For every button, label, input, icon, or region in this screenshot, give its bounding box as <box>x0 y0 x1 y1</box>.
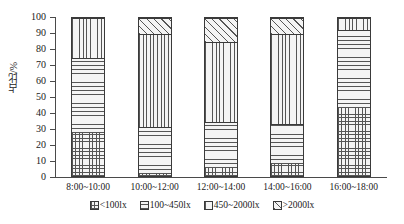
bar-segment->2000lx <box>271 18 303 34</box>
bar-segment-100~450lx <box>205 122 237 169</box>
bar-segment-<100lx <box>72 133 104 176</box>
legend-swatch-icon <box>273 201 282 210</box>
legend: <100lx100~450lx450~2000lx>2000lx <box>0 200 404 211</box>
y-tick-label: 30 <box>16 124 46 134</box>
bar-1 <box>71 17 105 177</box>
bar-segment-450~2000lx <box>139 34 171 127</box>
plot-area <box>55 17 387 177</box>
bar-3 <box>204 17 238 177</box>
y-tick-label: 100 <box>16 12 46 22</box>
bar-segment-100~450lx <box>271 124 303 164</box>
legend-swatch-icon <box>204 201 213 210</box>
legend-label: 100~450lx <box>150 200 191 211</box>
y-tick-label: 40 <box>16 108 46 118</box>
bar-4 <box>270 17 304 177</box>
bar-2 <box>138 17 172 177</box>
y-tick-label: 60 <box>16 76 46 86</box>
bar-segment-<100lx <box>338 108 370 176</box>
bar-segment-100~450lx <box>338 30 370 108</box>
legend-label: <100lx <box>100 200 127 211</box>
bar-segment-<100lx <box>205 168 237 176</box>
bar-segment-100~450lx <box>72 58 104 134</box>
y-tick-label: 90 <box>16 28 46 38</box>
y-tick-label: 80 <box>16 44 46 54</box>
legend-label: 450~2000lx <box>214 200 260 211</box>
legend-swatch-icon <box>90 201 99 210</box>
y-tick-label: 10 <box>16 156 46 166</box>
x-axis-line <box>55 177 387 178</box>
legend-swatch-icon <box>140 201 149 210</box>
y-tick-label: 0 <box>16 172 46 182</box>
bar-segment-450~2000lx <box>205 42 237 122</box>
bar-5 <box>337 17 371 177</box>
bar-segment-450~2000lx <box>72 18 104 58</box>
legend-item-1[interactable]: <100lx <box>90 200 127 211</box>
y-tick-label: 20 <box>16 140 46 150</box>
y-tick-mark <box>50 177 55 178</box>
bar-segment-450~2000lx <box>271 34 303 124</box>
bar-segment-<100lx <box>271 164 303 176</box>
legend-item-2[interactable]: 100~450lx <box>140 200 191 211</box>
bar-segment-100~450lx <box>139 127 171 174</box>
legend-item-4[interactable]: >2000lx <box>273 200 315 211</box>
bar-segment-450~2000lx <box>338 18 370 30</box>
bar-segment->2000lx <box>205 18 237 42</box>
legend-item-3[interactable]: 450~2000lx <box>204 200 260 211</box>
bar-segment->2000lx <box>139 18 171 34</box>
x-tick-label: 16:00~18:00 <box>309 182 399 193</box>
bar-segment-<100lx <box>139 174 171 176</box>
y-tick-label: 50 <box>16 92 46 102</box>
y-tick-label: 70 <box>16 60 46 70</box>
legend-label: >2000lx <box>283 200 315 211</box>
stacked-bar-chart: 占比/% 1009080706050403020100 8:00~10:0010… <box>0 0 404 224</box>
